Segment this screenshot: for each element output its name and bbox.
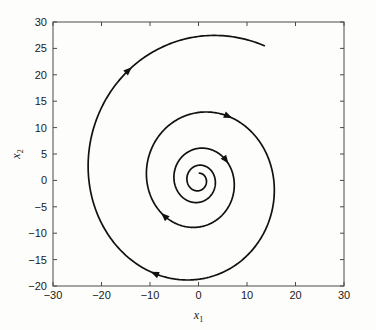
phase-portrait-figure: −30−20−100102030−20−15−10−5051015202530x…	[0, 0, 376, 330]
y-tick-label: −15	[28, 254, 47, 266]
x-tick-label: 30	[338, 289, 350, 301]
y-tick-label: 20	[35, 69, 47, 81]
y-tick-label: 25	[35, 42, 47, 54]
y-tick-label: −20	[28, 280, 47, 292]
x-tick-label: 0	[195, 289, 201, 301]
x-tick-label: −10	[141, 289, 160, 301]
x-tick-label: 20	[289, 289, 301, 301]
x-tick-label: 10	[241, 289, 253, 301]
y-tick-label: 10	[35, 122, 47, 134]
y-tick-label: 5	[41, 148, 47, 160]
y-tick-label: −5	[34, 201, 47, 213]
y-tick-label: 15	[35, 95, 47, 107]
y-tick-label: −10	[28, 227, 47, 239]
x-tick-label: −20	[92, 289, 111, 301]
y-tick-label: 30	[35, 16, 47, 28]
y-tick-label: 0	[41, 174, 47, 186]
